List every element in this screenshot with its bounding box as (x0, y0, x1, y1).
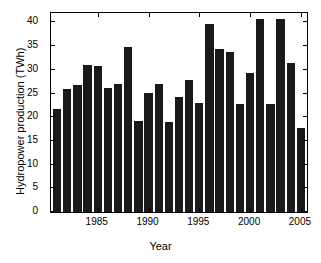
y-axis-tick-label: 0 (0, 206, 44, 216)
bar (236, 104, 244, 212)
y-axis-tick (51, 211, 55, 212)
bar (175, 97, 183, 212)
x-axis-tick (149, 208, 150, 212)
bar (104, 88, 112, 212)
bar (287, 63, 295, 212)
x-axis-tick (250, 208, 251, 212)
bar (114, 84, 122, 212)
y-axis-tick (51, 93, 55, 94)
bar (63, 89, 71, 212)
bar (155, 84, 163, 212)
plot-area (50, 12, 308, 213)
bar (83, 65, 91, 212)
bar (144, 93, 152, 212)
bar (94, 66, 102, 212)
bar (266, 104, 274, 213)
x-axis-tick-label: 1985 (86, 217, 108, 227)
y-axis-tick (303, 69, 307, 70)
bar (226, 52, 234, 212)
y-axis-tick (303, 187, 307, 188)
y-axis-tick-label: 35 (0, 40, 44, 50)
x-axis-tick-label: 1995 (187, 217, 209, 227)
bar (185, 80, 193, 212)
y-axis-tick (51, 21, 55, 22)
bar (124, 47, 132, 212)
bar (246, 73, 254, 212)
x-axis-tick (250, 13, 251, 17)
y-axis-tick-label: 5 (0, 182, 44, 192)
y-axis-tick-label: 40 (0, 16, 44, 26)
x-axis-tick (199, 208, 200, 212)
x-axis-tick (301, 13, 302, 17)
bar (165, 122, 173, 212)
y-axis-tick-label: 15 (0, 135, 44, 145)
x-axis-tick (98, 208, 99, 212)
y-axis-tick (51, 187, 55, 188)
chart-figure: Hydropower production (TWh) 051015202530… (0, 0, 321, 263)
y-axis-tick (303, 116, 307, 117)
y-axis-tick (51, 69, 55, 70)
x-axis-tick-label: 1990 (136, 217, 158, 227)
bar (53, 109, 61, 212)
y-axis-tick (303, 21, 307, 22)
y-axis-tick (303, 211, 307, 212)
bar (276, 19, 284, 212)
y-axis-tick-label: 25 (0, 88, 44, 98)
x-axis-tick (149, 13, 150, 17)
x-axis-tick (98, 13, 99, 17)
y-axis-tick (303, 164, 307, 165)
y-axis-tick (51, 164, 55, 165)
y-axis-tick (303, 93, 307, 94)
x-axis-tick-label: 2000 (238, 217, 260, 227)
bar (73, 85, 81, 212)
x-axis-tick-label: 2005 (289, 217, 311, 227)
y-axis-tick-label: 20 (0, 111, 44, 121)
y-axis-tick (303, 45, 307, 46)
y-axis-tick-label: 30 (0, 64, 44, 74)
y-axis-tick-label: 10 (0, 159, 44, 169)
y-axis-tick (51, 45, 55, 46)
y-axis-tick (51, 116, 55, 117)
bar (205, 24, 213, 212)
y-axis-tick (303, 140, 307, 141)
bar (256, 19, 264, 212)
bar-series (51, 13, 307, 212)
bar (195, 103, 203, 212)
x-axis-label: Year (0, 240, 321, 252)
x-axis-tick (301, 208, 302, 212)
bar (215, 49, 223, 212)
bar (134, 121, 142, 212)
y-axis-tick (51, 140, 55, 141)
x-axis-tick (199, 13, 200, 17)
